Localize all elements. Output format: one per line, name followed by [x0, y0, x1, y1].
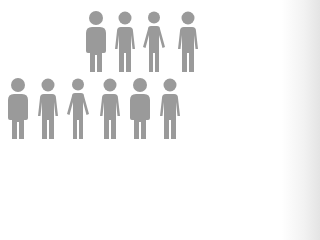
person-icon — [65, 78, 91, 140]
person-icon — [83, 11, 109, 73]
person-icon — [97, 78, 123, 140]
person-icon — [112, 11, 138, 73]
person-icon — [5, 78, 31, 140]
person-icon — [175, 11, 201, 73]
person-icon — [127, 78, 153, 140]
person-icon — [35, 78, 61, 140]
person-icon — [157, 78, 183, 140]
person-icon — [141, 11, 167, 73]
